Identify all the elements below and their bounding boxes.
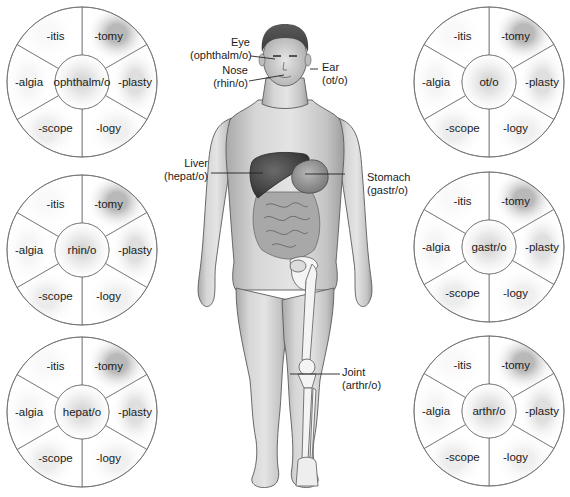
callout-stomach-root: (gastr/o) — [367, 184, 410, 197]
callout-ear: Ear (ot/o) — [322, 61, 348, 87]
callout-eye-organ: Eye — [190, 36, 250, 49]
human-figure-illustration — [0, 0, 570, 497]
callout-liver-organ: Liver — [150, 157, 208, 170]
callout-nose-organ: Nose — [190, 64, 248, 77]
callout-eye: Eye (ophthalm/o) — [190, 36, 250, 62]
callout-joint: Joint (arthr/o) — [342, 366, 381, 392]
callout-liver-root: (hepat/o) — [150, 170, 208, 183]
callout-eye-root: (ophthalm/o) — [190, 49, 250, 62]
stomach — [292, 160, 328, 193]
diagram-canvas: -tomy-plasty-logy-scope-algia-itisophtha… — [0, 0, 570, 497]
callout-ear-root: (ot/o) — [322, 74, 348, 87]
callout-nose-root: (rhin/o) — [190, 77, 248, 90]
callout-ear-organ: Ear — [322, 61, 348, 74]
callout-stomach: Stomach (gastr/o) — [367, 171, 410, 197]
organs — [250, 152, 328, 259]
body-silhouette — [198, 78, 372, 488]
callout-liver: Liver (hepat/o) — [150, 157, 208, 183]
callout-joint-organ: Joint — [342, 366, 381, 379]
callout-joint-root: (arthr/o) — [342, 379, 381, 392]
callout-stomach-organ: Stomach — [367, 171, 410, 184]
callout-nose: Nose (rhin/o) — [190, 64, 248, 90]
head — [259, 24, 311, 86]
